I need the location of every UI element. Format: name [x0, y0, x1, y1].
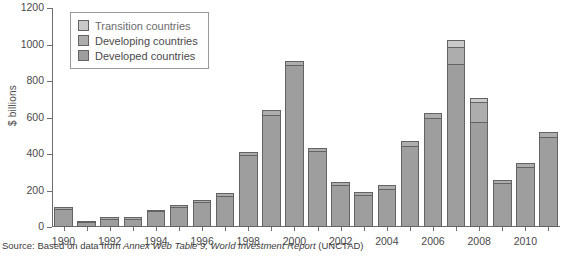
- bar-1997: [216, 194, 234, 227]
- x-tick-mark: [341, 227, 342, 231]
- bar-segment-developing: [470, 102, 488, 123]
- bar-segment-developing: [54, 207, 72, 210]
- bar-segment-developing: [262, 110, 280, 116]
- bar-segment-developing: [170, 205, 188, 208]
- x-tick-label: 2006: [421, 235, 444, 247]
- bar-segment-developed: [401, 146, 419, 227]
- y-tick-label: 1200: [21, 1, 44, 13]
- x-tick-mark: [179, 227, 180, 231]
- bar-segment-developing: [516, 163, 534, 168]
- x-tick-mark: [156, 227, 157, 231]
- bar-2010: [516, 164, 534, 227]
- bar-1996: [193, 201, 211, 227]
- legend-label-developed: Developed countries: [95, 50, 195, 62]
- bar-segment-developed: [170, 207, 188, 227]
- x-tick-mark: [225, 227, 226, 231]
- bar-2005: [401, 142, 419, 227]
- x-tick-mark: [410, 227, 411, 231]
- bar-1998: [239, 153, 257, 227]
- y-axis-line: [52, 8, 53, 227]
- bar-segment-transition: [447, 40, 465, 48]
- source-citation: Annex Web Table 9, World Investment Repo…: [123, 240, 316, 251]
- bar-segment-developed: [539, 137, 557, 227]
- y-tick-mark: [47, 154, 52, 155]
- bar-1994: [147, 211, 165, 227]
- source-prefix: Source: Based on data from: [2, 240, 123, 251]
- x-tick-mark: [64, 227, 65, 231]
- x-tick-mark: [456, 227, 457, 231]
- bar-segment-developing: [447, 47, 465, 64]
- bar-2011: [539, 133, 557, 227]
- x-tick-label: 2008: [467, 235, 490, 247]
- bar-2002: [331, 183, 349, 227]
- bar-2004: [378, 186, 396, 227]
- bar-segment-developing: [331, 182, 349, 186]
- x-tick-mark: [548, 227, 549, 231]
- bar-segment-developed: [447, 64, 465, 227]
- bar-segment-developed: [262, 115, 280, 227]
- bar-segment-developed: [424, 118, 442, 227]
- bar-segment-developed: [493, 183, 511, 227]
- bar-1991: [77, 222, 95, 227]
- bar-segment-developing: [124, 217, 142, 219]
- x-tick-mark: [133, 227, 134, 231]
- x-tick-mark: [294, 227, 295, 231]
- legend-label-developing: Developing countries: [95, 35, 198, 47]
- legend-item-developing: Developing countries: [78, 33, 198, 48]
- bar-1993: [124, 218, 142, 227]
- bar-segment-developed: [124, 219, 142, 227]
- bar-segment-developing: [100, 217, 118, 219]
- x-tick-mark: [271, 227, 272, 231]
- x-tick-mark: [387, 227, 388, 231]
- bar-segment-developed: [54, 209, 72, 227]
- x-tick-mark: [248, 227, 249, 231]
- x-tick-mark: [525, 227, 526, 231]
- bar-segment-developed: [331, 185, 349, 227]
- bar-1995: [170, 206, 188, 227]
- bar-segment-developing: [308, 148, 326, 152]
- chart-figure: $ billions 020040060080010001200 1990199…: [0, 0, 571, 257]
- y-tick-label: 400: [26, 147, 44, 159]
- legend-item-transition: Transition countries: [78, 18, 198, 33]
- y-tick-label: 1000: [21, 38, 44, 50]
- y-tick-label: 0: [38, 220, 44, 232]
- y-tick-mark: [47, 8, 52, 9]
- bar-2001: [308, 149, 326, 227]
- bar-segment-developing: [193, 200, 211, 203]
- bar-1999: [262, 111, 280, 227]
- source-suffix: (UNCTAD): [316, 240, 364, 251]
- bar-segment-developing: [539, 132, 557, 138]
- x-tick-mark: [364, 227, 365, 231]
- bar-segment-developing: [216, 193, 234, 197]
- bar-2009: [493, 181, 511, 227]
- bar-segment-developed: [354, 195, 372, 227]
- bar-segment-developed: [516, 167, 534, 227]
- x-tick-mark: [87, 227, 88, 231]
- bar-2007: [447, 41, 465, 227]
- legend-label-transition: Transition countries: [95, 20, 191, 32]
- bar-segment-developed: [308, 151, 326, 227]
- x-tick-mark: [202, 227, 203, 231]
- y-tick-mark: [47, 45, 52, 46]
- bar-segment-developing: [77, 221, 95, 223]
- y-tick-label: 800: [26, 74, 44, 86]
- x-tick-mark: [318, 227, 319, 231]
- bar-segment-developing: [401, 141, 419, 147]
- y-tick-mark: [47, 191, 52, 192]
- legend-swatch-transition-icon: [78, 20, 89, 31]
- y-tick-mark: [47, 81, 52, 82]
- y-tick-mark: [47, 227, 52, 228]
- x-tick-mark: [502, 227, 503, 231]
- bar-segment-developed: [147, 211, 165, 227]
- bar-segment-developed: [470, 122, 488, 227]
- x-tick-label: 2010: [514, 235, 537, 247]
- bar-segment-transition: [470, 98, 488, 103]
- bar-segment-developed: [216, 196, 234, 227]
- bar-segment-developing: [378, 185, 396, 189]
- chart-legend: Transition countries Developing countrie…: [70, 12, 209, 69]
- bar-1990: [54, 208, 72, 227]
- bar-segment-developing: [239, 152, 257, 156]
- x-tick-mark: [110, 227, 111, 231]
- legend-swatch-developed-icon: [78, 50, 89, 61]
- bar-segment-developed: [193, 202, 211, 227]
